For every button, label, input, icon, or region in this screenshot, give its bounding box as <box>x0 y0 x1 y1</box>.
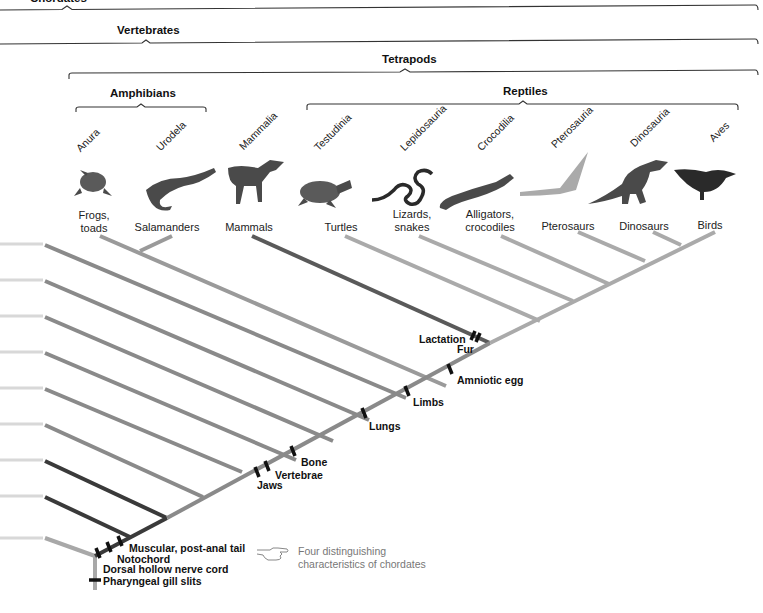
tick-lactation <box>471 331 475 340</box>
tetrapods-bracket <box>69 69 758 79</box>
trait-label-nerve-cord: Dorsal hollow nerve cord <box>103 563 228 575</box>
trait-label-fur: Fur <box>457 343 474 355</box>
salamander-illustration <box>146 168 216 211</box>
trait-label-bone: Bone <box>301 456 327 468</box>
pointing-hand-icon <box>256 544 290 562</box>
chordate-characteristics-note: Four distinguishing characteristics of c… <box>298 545 426 571</box>
branch-lizards <box>419 236 573 301</box>
trait-label-jaws: Jaws <box>257 479 283 491</box>
branch-turtles <box>345 236 540 321</box>
taxon-common-dinosaurs: Dinosaurs <box>619 220 669 233</box>
amphibians-bracket <box>76 104 206 112</box>
snake-illustration <box>372 170 432 204</box>
trait-label-amniotic-egg: Amniotic egg <box>457 374 524 386</box>
clade-label-chordates: Chordates <box>30 0 87 4</box>
taxon-common-line1: Frogs, <box>78 209 109 222</box>
clade-label-amphibians: Amphibians <box>110 87 176 99</box>
taxon-common-line2: crocodiles <box>465 221 515 234</box>
chordates-bracket <box>0 5 758 10</box>
taxon-common-line1: Alligators, <box>465 208 515 221</box>
dinosaur-illustration <box>588 160 668 204</box>
taxa-branches <box>100 232 681 386</box>
trait-label-gill-slits: Pharyngeal gill slits <box>103 575 202 587</box>
taxon-common-line2: toads <box>78 222 109 235</box>
taxon-common-frogs: Frogs, toads <box>78 209 109 235</box>
left-stubs <box>0 244 43 538</box>
reptiles-bracket <box>307 101 738 110</box>
branch-pterosaurs <box>578 232 645 261</box>
note-line1: Four distinguishing <box>298 545 426 558</box>
branch-salamanders <box>140 236 172 251</box>
taxon-common-lizards: Lizards, snakes <box>393 208 432 234</box>
clade-label-vertebrates: Vertebrates <box>117 24 180 36</box>
deer-illustration <box>228 160 284 204</box>
taxon-common-birds: Birds <box>697 219 722 232</box>
trait-label-limbs: Limbs <box>413 396 444 408</box>
taxon-common-line1: Lizards, <box>393 208 432 221</box>
note-line2: characteristics of chordates <box>298 558 426 571</box>
frog-illustration <box>74 170 112 196</box>
vertebrates-bracket <box>0 39 758 44</box>
clade-label-tetrapods: Tetrapods <box>382 53 437 65</box>
taxon-common-crocodilians: Alligators, crocodiles <box>465 208 515 234</box>
pterosaur-illustration <box>520 152 588 196</box>
bird-illustration <box>674 169 736 200</box>
tick-fur <box>476 333 480 342</box>
taxon-common-pterosaurs: Pterosaurs <box>541 220 594 233</box>
trait-label-lungs: Lungs <box>369 420 401 432</box>
crocodile-illustration <box>440 174 514 210</box>
backbone <box>95 232 715 590</box>
animal-illustrations <box>74 152 736 211</box>
taxon-common-line2: snakes <box>393 221 432 234</box>
branch-dinosaurs <box>653 232 681 245</box>
clade-label-reptiles: Reptiles <box>503 85 548 97</box>
taxon-common-turtles: Turtles <box>324 221 357 234</box>
taxon-common-mammals: Mammals <box>225 221 273 234</box>
turtle-illustration <box>298 180 352 208</box>
taxon-common-salamanders: Salamanders <box>135 221 200 234</box>
